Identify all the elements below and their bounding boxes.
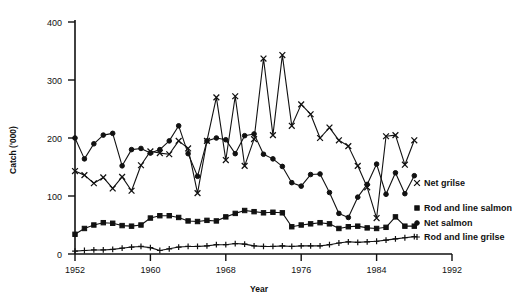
data-point-circle	[158, 147, 163, 152]
data-point-plus	[157, 248, 163, 254]
legend-item-net-salmon: Net salmon	[415, 218, 473, 228]
data-point-square	[158, 214, 162, 218]
data-point-plus	[336, 240, 342, 246]
data-point-circle	[252, 132, 257, 137]
x-tick-label: 1968	[216, 265, 236, 275]
data-point-square	[337, 226, 341, 230]
data-point-circle	[355, 195, 360, 200]
x-axis-title: Year	[250, 284, 269, 294]
data-point-square	[365, 226, 369, 230]
data-point-circle	[82, 157, 87, 162]
data-point-plus	[119, 245, 125, 251]
line-chart: 0100200300400 195219601968197619841992 N…	[0, 0, 519, 307]
data-point-square	[242, 208, 246, 212]
x-tick-label: 1960	[140, 265, 160, 275]
chart-figure: 0100200300400 195219601968197619841992 N…	[0, 0, 519, 307]
data-point-square	[290, 225, 294, 229]
data-point-square	[356, 224, 360, 228]
data-point-square	[299, 223, 303, 227]
data-point-square	[148, 216, 152, 220]
data-point-x	[414, 180, 420, 186]
x-tick-label: 1984	[367, 265, 387, 275]
data-point-circle	[92, 142, 97, 147]
data-point-plus	[327, 242, 333, 248]
y-axis-tick-labels: 0100200300400	[47, 18, 62, 260]
data-point-circle	[308, 172, 313, 177]
data-point-circle	[318, 172, 323, 177]
data-point-square	[252, 209, 256, 213]
legend-label: Net salmon	[424, 218, 473, 228]
data-point-circle	[415, 221, 420, 226]
data-point-circle	[261, 152, 266, 157]
data-point-plus	[129, 244, 135, 250]
data-point-plus	[261, 244, 267, 250]
x-axis-ticks	[75, 254, 452, 261]
data-point-x	[91, 180, 97, 186]
data-point-square	[393, 215, 397, 219]
data-point-square	[176, 215, 180, 219]
data-point-square	[318, 220, 322, 224]
data-point-x	[138, 162, 144, 168]
data-point-square	[92, 223, 96, 227]
y-tick-label: 0	[57, 250, 62, 260]
data-point-circle	[224, 137, 229, 142]
data-point-plus	[414, 234, 420, 240]
data-point-circle	[73, 136, 78, 141]
data-point-square	[82, 226, 86, 230]
data-point-square	[403, 224, 407, 228]
data-point-circle	[129, 147, 134, 152]
data-point-plus	[82, 248, 88, 254]
data-point-circle	[101, 133, 106, 138]
data-point-plus	[317, 243, 323, 249]
data-point-plus	[364, 239, 370, 245]
legend-item-rod-and-line-grilse: Rod and line grilse	[414, 232, 504, 242]
y-tick-label: 100	[47, 192, 62, 202]
data-point-circle	[176, 124, 181, 129]
series-rod-and-line-salmon	[73, 208, 417, 236]
data-point-plus	[138, 244, 144, 250]
data-point-x	[355, 163, 361, 169]
data-point-plus	[289, 244, 295, 250]
data-point-circle	[139, 146, 144, 151]
legend-item-rod-and-line-salmon: Rod and line salmon	[415, 203, 512, 213]
data-point-plus	[176, 244, 182, 250]
data-point-square	[261, 211, 265, 215]
data-point-circle	[242, 133, 247, 138]
data-point-plus	[298, 243, 304, 249]
data-point-square	[120, 223, 124, 227]
data-point-square	[214, 219, 218, 223]
data-point-plus	[242, 241, 248, 247]
data-point-circle	[327, 190, 332, 195]
data-point-circle	[374, 162, 379, 167]
data-point-plus	[185, 244, 191, 250]
data-point-plus	[72, 248, 78, 254]
x-tick-label: 1976	[291, 265, 311, 275]
data-point-circle	[271, 157, 276, 162]
data-point-circle	[214, 136, 219, 141]
data-point-square	[415, 206, 419, 210]
data-point-plus	[204, 243, 210, 249]
x-tick-label: 1992	[442, 265, 462, 275]
series-rod-and-line-grilse	[72, 234, 417, 254]
data-point-plus	[279, 243, 285, 249]
data-point-x	[327, 125, 333, 131]
data-point-square	[139, 223, 143, 227]
data-point-x	[100, 175, 106, 181]
data-point-circle	[205, 139, 210, 144]
data-point-plus	[195, 244, 201, 250]
data-point-x	[336, 137, 342, 143]
data-point-x	[176, 138, 182, 144]
data-point-square	[327, 222, 331, 226]
legend-label: Rod and line grilse	[424, 232, 505, 242]
data-point-circle	[337, 211, 342, 216]
legend-item-net-grilse: Net grilse	[414, 178, 465, 188]
data-point-plus	[393, 236, 399, 242]
data-point-square	[224, 215, 228, 219]
chart-legend: Net grilseRod and line salmonNet salmonR…	[414, 178, 512, 242]
data-point-plus	[402, 235, 408, 241]
data-point-square	[73, 232, 77, 236]
data-point-plus	[251, 243, 257, 249]
data-point-x	[317, 135, 323, 141]
series-net-salmon	[73, 124, 417, 220]
data-point-plus	[232, 241, 238, 247]
